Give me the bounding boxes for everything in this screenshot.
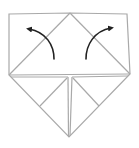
center-vertical-crease-left: [68, 77, 69, 136]
center-vertical-crease-right: [70, 77, 72, 136]
paper-shape: [9, 13, 130, 137]
fold-arrows: [29, 28, 111, 59]
left-diagonal-crease: [9, 13, 70, 75]
left-inner-diagonal-crease: [40, 78, 67, 106]
middle-horizontal-crease-lower-right: [72, 76, 128, 77]
right-diagonal-crease: [70, 13, 130, 74]
middle-horizontal-crease: [9, 74, 130, 75]
right-inner-diagonal-crease: [73, 78, 99, 106]
origami-diagram: [0, 0, 139, 148]
